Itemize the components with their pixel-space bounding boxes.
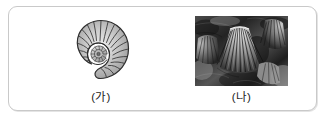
ammonite-spiral-shell-icon bbox=[72, 19, 130, 83]
brachiopod-fan-shell-photo bbox=[195, 16, 288, 86]
specimen-a-figure bbox=[11, 15, 191, 87]
specimen-a: (가) bbox=[11, 7, 191, 110]
specimen-b-caption: (나) bbox=[169, 92, 314, 104]
specimen-b-figure bbox=[169, 15, 314, 87]
specimen-a-caption: (가) bbox=[11, 92, 191, 104]
specimen-b: (나) bbox=[169, 7, 314, 110]
figure-panel: (가) bbox=[8, 6, 317, 111]
